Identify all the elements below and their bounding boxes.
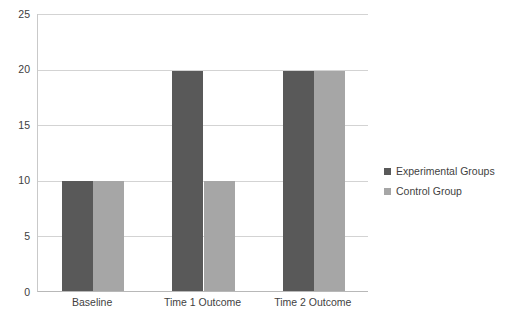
bars-layer xyxy=(38,14,368,291)
bar-time-2-outcome-experimental-groups xyxy=(283,71,314,291)
x-axis-label: Baseline xyxy=(37,296,147,309)
y-axis-tick-label: 5 xyxy=(0,231,30,242)
legend-swatch-icon xyxy=(384,188,391,195)
bar-time-1-outcome-experimental-groups xyxy=(172,71,203,291)
bar-chart: 0510152025 BaselineTime 1 OutcomeTime 2 … xyxy=(0,0,506,330)
x-axis-label: Time 1 Outcome xyxy=(147,296,257,309)
legend-swatch-icon xyxy=(384,168,391,175)
y-axis-tick-label: 10 xyxy=(0,175,30,186)
y-axis-tick-label: 0 xyxy=(0,287,30,298)
legend-item: Experimental Groups xyxy=(384,163,502,180)
x-axis-label: Time 2 Outcome xyxy=(258,296,368,309)
legend-item: Control Group xyxy=(384,183,502,200)
y-axis-tick-label: 25 xyxy=(0,9,30,20)
bar-time-2-outcome-control-group xyxy=(314,71,345,291)
y-axis-tick-label: 20 xyxy=(0,64,30,75)
x-axis-labels: BaselineTime 1 OutcomeTime 2 Outcome xyxy=(37,296,368,316)
legend-label: Control Group xyxy=(396,186,462,197)
y-axis-tick-label: 15 xyxy=(0,120,30,131)
bar-baseline-control-group xyxy=(93,181,124,291)
legend-label: Experimental Groups xyxy=(396,166,495,177)
chart-legend: Experimental GroupsControl Group xyxy=(384,163,502,203)
plot-area xyxy=(37,14,368,292)
bar-baseline-experimental-groups xyxy=(62,181,93,291)
bar-time-1-outcome-control-group xyxy=(204,181,235,291)
